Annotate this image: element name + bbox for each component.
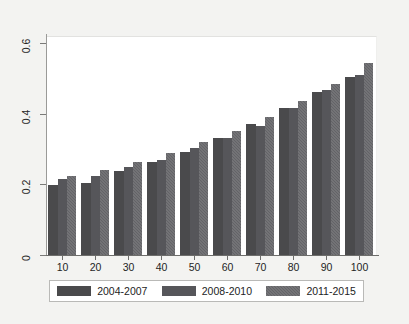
x-axis-tick — [128, 256, 129, 260]
bar-series-layer — [47, 36, 377, 255]
bar — [213, 138, 222, 255]
bar — [100, 170, 109, 255]
x-axis-tick-label: 30 — [114, 261, 143, 273]
x-axis-tick — [326, 256, 327, 260]
bar — [298, 101, 307, 255]
chart-legend: 2004-2007 2008-2010 2011-2015 — [49, 280, 364, 302]
bar — [223, 138, 232, 255]
bar — [199, 142, 208, 255]
x-axis-tick-label: 60 — [213, 261, 242, 273]
bar — [124, 167, 133, 255]
x-axis-tick-label: 90 — [312, 261, 341, 273]
y-axis-tick-label: 0 — [14, 248, 38, 262]
legend-item[interactable]: 2011-2015 — [266, 285, 355, 297]
y-axis-tick — [40, 255, 46, 256]
bar — [279, 108, 288, 255]
bar — [81, 183, 90, 255]
x-axis-tick-label: 70 — [246, 261, 275, 273]
x-axis-tick — [95, 256, 96, 260]
y-axis-tick-label: 0.4 — [14, 107, 38, 121]
bar — [114, 171, 123, 255]
x-axis-tick-label: 80 — [279, 261, 308, 273]
legend-swatch-icon — [266, 286, 300, 296]
bar — [322, 90, 331, 255]
y-axis-tick-label: 0.2 — [14, 177, 38, 191]
bar — [58, 179, 67, 255]
x-axis-tick — [359, 256, 360, 260]
x-axis-tick-label: 100 — [345, 261, 374, 273]
legend-item-label: 2011-2015 — [306, 285, 355, 297]
x-axis-tick — [161, 256, 162, 260]
legend-item[interactable]: 2004-2007 — [57, 285, 147, 297]
y-axis-tick — [40, 184, 46, 185]
x-axis-tick — [194, 256, 195, 260]
bar — [166, 153, 175, 255]
x-axis-tick — [260, 256, 261, 260]
y-axis-tick-label: 0.6 — [14, 36, 38, 50]
bar — [180, 152, 189, 255]
bar — [331, 84, 340, 255]
x-axis-tick — [227, 256, 228, 260]
x-axis-tick-label: 20 — [81, 261, 110, 273]
bar — [256, 126, 265, 255]
bar — [265, 117, 274, 255]
legend-swatch-icon — [162, 286, 196, 296]
legend-item-label: 2008-2010 — [202, 285, 252, 297]
bar — [345, 77, 354, 255]
y-axis-tick — [40, 43, 46, 44]
legend-item[interactable]: 2008-2010 — [162, 285, 252, 297]
x-axis-tick-label: 10 — [48, 261, 77, 273]
bar — [190, 148, 199, 255]
bar — [67, 176, 76, 255]
bar — [289, 108, 298, 255]
legend-item-label: 2004-2007 — [97, 285, 147, 297]
legend-swatch-icon — [57, 286, 91, 296]
bar — [364, 63, 373, 256]
bar — [355, 75, 364, 255]
bar — [246, 124, 255, 255]
bar — [133, 162, 142, 255]
bar — [157, 160, 166, 255]
chart-figure: 00.20.40.6 102030405060708090100 2004-20… — [0, 0, 409, 324]
bar — [232, 131, 241, 255]
x-axis-tick-label: 50 — [180, 261, 209, 273]
x-axis-tick-label: 40 — [147, 261, 176, 273]
bar — [312, 92, 321, 255]
bar — [147, 162, 156, 255]
x-axis-tick — [62, 256, 63, 260]
y-axis-tick — [40, 114, 46, 115]
bar — [91, 176, 100, 255]
x-axis-tick — [293, 256, 294, 260]
bar — [48, 185, 57, 255]
